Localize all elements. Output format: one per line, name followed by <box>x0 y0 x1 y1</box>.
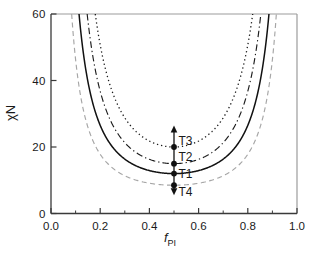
x-tick-label: 1.0 <box>289 220 305 232</box>
y-axis-label: χN <box>3 105 18 121</box>
y-axis-label-text: χN <box>3 105 18 121</box>
figure: 0.00.20.40.60.81.00204060T3T2T1T4 χN fPI <box>0 0 313 254</box>
y-tick-label: 40 <box>32 75 46 87</box>
x-axis-label-subscript: PI <box>168 238 177 248</box>
x-tick-label: 0.4 <box>141 220 158 232</box>
x-tick-label: 0.2 <box>92 220 108 232</box>
x-tick-label: 0.6 <box>191 220 207 232</box>
y-tick-label: 0 <box>39 208 46 220</box>
arrow-head-up-icon <box>171 125 178 132</box>
x-tick-label: 0.0 <box>43 220 59 232</box>
x-tick-label: 0.8 <box>240 220 256 232</box>
arrow-head-down-icon <box>171 188 178 195</box>
y-tick-label: 60 <box>32 8 46 20</box>
data-point-T2 <box>171 161 177 167</box>
x-axis-label: fPI <box>164 230 176 248</box>
chart-canvas: 0.00.20.40.60.81.00204060T3T2T1T4 <box>0 0 313 254</box>
point-label-T2: T2 <box>179 150 193 164</box>
y-tick-label: 20 <box>32 141 46 153</box>
data-point-T4 <box>171 182 177 188</box>
point-label-T3: T3 <box>179 134 193 148</box>
data-point-T1 <box>171 171 177 177</box>
data-point-T3 <box>171 144 177 150</box>
point-label-T1: T1 <box>179 167 193 181</box>
point-label-T4: T4 <box>179 185 193 199</box>
